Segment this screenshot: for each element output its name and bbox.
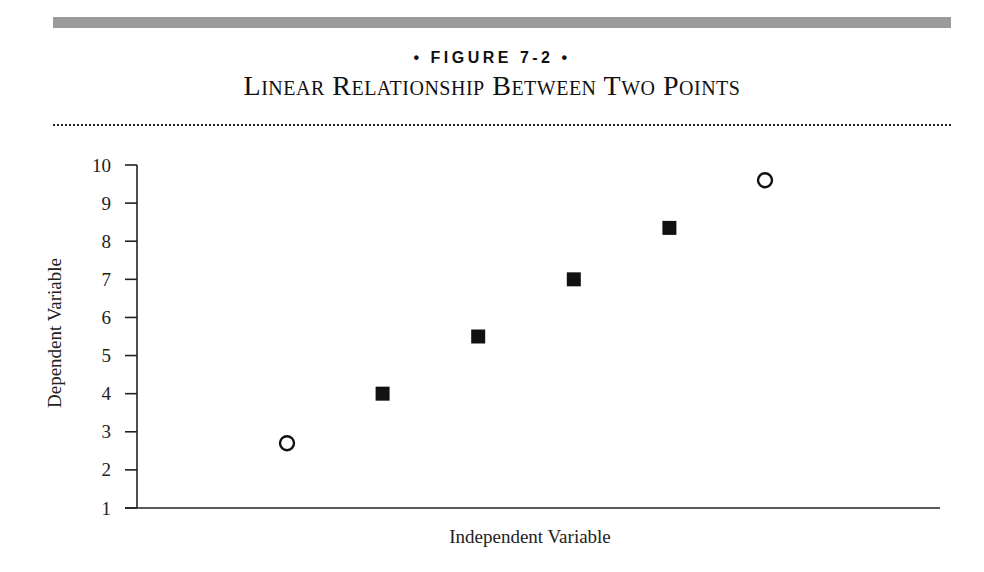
scatter-plot: 12345678910 Independent Variable Depende…: [0, 0, 984, 572]
y-tick-label: 5: [102, 345, 112, 366]
y-tick-label: 8: [102, 231, 112, 252]
y-tick-label: 3: [102, 421, 112, 442]
filled-square-marker: [471, 330, 485, 344]
y-axis-label: Dependent Variable: [44, 258, 65, 408]
y-tick-label: 4: [102, 383, 112, 404]
y-tick-label: 2: [102, 459, 112, 480]
y-tick-label: 7: [102, 269, 112, 290]
axes: [125, 165, 940, 508]
filled-square-marker: [567, 272, 581, 286]
x-axis-label: Independent Variable: [449, 526, 611, 547]
y-tick-label: 1: [102, 498, 112, 519]
open-circle-marker: [280, 436, 294, 450]
filled-square-marker: [376, 387, 390, 401]
y-tick-label: 10: [92, 155, 111, 176]
data-points: [280, 173, 772, 450]
y-ticks: 12345678910: [92, 155, 137, 519]
open-circle-marker: [758, 173, 772, 187]
y-tick-label: 6: [102, 307, 112, 328]
y-tick-label: 9: [102, 193, 112, 214]
filled-square-marker: [662, 221, 676, 235]
